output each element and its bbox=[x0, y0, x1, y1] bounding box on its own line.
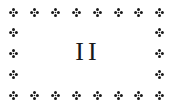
fleuron-icon bbox=[114, 8, 123, 17]
fleuron-icon bbox=[9, 91, 18, 100]
fleuron-icon bbox=[134, 91, 143, 100]
chapter-numeral: II bbox=[0, 37, 172, 67]
fleuron-icon bbox=[9, 28, 18, 37]
fleuron-icon bbox=[155, 8, 164, 17]
fleuron-icon bbox=[155, 70, 164, 79]
fleuron-icon bbox=[9, 8, 18, 17]
fleuron-icon bbox=[51, 91, 60, 100]
fleuron-icon bbox=[93, 8, 102, 17]
fleuron-icon bbox=[9, 70, 18, 79]
fleuron-icon bbox=[155, 91, 164, 100]
fleuron-icon bbox=[30, 91, 39, 100]
fleuron-icon bbox=[114, 91, 123, 100]
fleuron-icon bbox=[30, 8, 39, 17]
fleuron-icon bbox=[155, 28, 164, 37]
fleuron-icon bbox=[51, 8, 60, 17]
fleuron-icon bbox=[72, 8, 81, 17]
fleuron-icon bbox=[93, 91, 102, 100]
fleuron-icon bbox=[134, 8, 143, 17]
fleuron-icon bbox=[72, 91, 81, 100]
